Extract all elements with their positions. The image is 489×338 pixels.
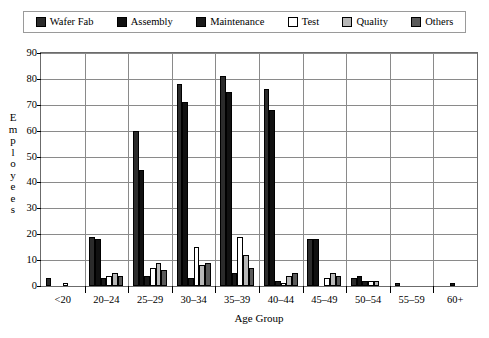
x-axis-tick-mark bbox=[303, 286, 304, 293]
bar-others[interactable] bbox=[161, 270, 167, 286]
bar-group bbox=[133, 53, 167, 286]
x-axis-tick-mark bbox=[85, 286, 86, 293]
bar-others[interactable] bbox=[336, 276, 342, 286]
chart-legend: Wafer FabAssemblyMaintenanceTestQualityO… bbox=[23, 11, 466, 33]
gridline-vertical bbox=[128, 53, 129, 286]
bar-maintenance[interactable] bbox=[450, 283, 456, 286]
y-axis-tick-label: 90 bbox=[27, 48, 38, 59]
y-axis-tick-mark bbox=[37, 131, 41, 132]
legend-item-label: Quality bbox=[356, 17, 388, 28]
bar-group bbox=[264, 53, 298, 286]
legend-item-quality[interactable]: Quality bbox=[342, 17, 388, 28]
y-axis-title-letter: p bbox=[7, 135, 19, 147]
bar-assembly[interactable] bbox=[313, 239, 319, 286]
x-axis-tick-mark bbox=[259, 286, 260, 293]
y-axis-title-letter: e bbox=[7, 181, 19, 193]
y-axis-tick-mark bbox=[37, 157, 41, 158]
legend-item-label: Assembly bbox=[131, 17, 173, 28]
legend-item-assembly[interactable]: Assembly bbox=[117, 17, 173, 28]
legend-swatch-icon bbox=[196, 17, 206, 27]
x-axis-tick-mark bbox=[433, 286, 434, 293]
bar-group bbox=[46, 53, 80, 286]
x-axis-tick-label: 60+ bbox=[447, 295, 463, 306]
y-axis-tick-label: 10 bbox=[27, 255, 38, 266]
chart-container: Wafer FabAssemblyMaintenanceTestQualityO… bbox=[0, 0, 489, 338]
y-axis-title: Employees bbox=[7, 112, 19, 216]
x-axis-tick-label: <20 bbox=[55, 295, 71, 306]
gridline-vertical bbox=[172, 53, 173, 286]
x-axis-tick-label: 25–29 bbox=[137, 295, 163, 306]
x-axis-tick-mark bbox=[128, 286, 129, 293]
bar-wafer-fab[interactable] bbox=[395, 283, 401, 286]
x-axis-tick-label: 55–59 bbox=[398, 295, 424, 306]
y-axis-tick-mark bbox=[37, 182, 41, 183]
bar-group bbox=[438, 53, 472, 286]
x-axis-tick-label: 50–54 bbox=[355, 295, 381, 306]
gridline-vertical bbox=[215, 53, 216, 286]
y-axis-tick-mark bbox=[37, 208, 41, 209]
bar-others[interactable] bbox=[118, 276, 124, 286]
y-axis-title-letter: o bbox=[7, 158, 19, 170]
bar-others[interactable] bbox=[292, 273, 298, 286]
y-axis-tick-mark bbox=[37, 234, 41, 235]
gridline-vertical bbox=[85, 53, 86, 286]
x-axis-tick-mark bbox=[172, 286, 173, 293]
y-axis-tick-mark bbox=[37, 79, 41, 80]
x-axis-tick-mark bbox=[215, 286, 216, 293]
y-axis-tick-mark bbox=[37, 53, 41, 54]
bar-group bbox=[89, 53, 123, 286]
legend-item-wafer-fab[interactable]: Wafer Fab bbox=[36, 17, 94, 28]
bar-assembly[interactable] bbox=[139, 170, 145, 287]
y-axis-tick-label: 60 bbox=[27, 125, 38, 136]
plot-area: Age Group 0102030405060708090<2020–2425–… bbox=[40, 52, 478, 287]
legend-swatch-icon bbox=[288, 17, 298, 27]
y-axis-tick-label: 50 bbox=[27, 151, 38, 162]
x-axis-tick-label: 20–24 bbox=[93, 295, 119, 306]
legend-swatch-icon bbox=[36, 17, 46, 27]
bar-wafer-fab[interactable] bbox=[46, 278, 52, 286]
gridline-vertical bbox=[346, 53, 347, 286]
bar-group bbox=[395, 53, 429, 286]
bar-group bbox=[177, 53, 211, 286]
y-axis-title-letter: E bbox=[7, 112, 19, 124]
bar-group bbox=[307, 53, 341, 286]
x-axis-tick-label: 40–44 bbox=[268, 295, 294, 306]
legend-swatch-icon bbox=[342, 17, 352, 27]
y-axis-tick-mark bbox=[37, 286, 41, 287]
y-axis-tick-label: 20 bbox=[27, 229, 38, 240]
x-axis-tick-label: 45–49 bbox=[311, 295, 337, 306]
y-axis-tick-label: 30 bbox=[27, 203, 38, 214]
legend-item-label: Wafer Fab bbox=[50, 17, 94, 28]
legend-item-label: Others bbox=[425, 17, 453, 28]
gridline-vertical bbox=[303, 53, 304, 286]
x-axis-title: Age Group bbox=[41, 312, 477, 324]
legend-swatch-icon bbox=[411, 17, 421, 27]
bar-assembly[interactable] bbox=[269, 110, 275, 286]
bar-group bbox=[351, 53, 385, 286]
legend-swatch-icon bbox=[117, 17, 127, 27]
legend-item-maintenance[interactable]: Maintenance bbox=[196, 17, 264, 28]
gridline-vertical bbox=[390, 53, 391, 286]
bar-group bbox=[220, 53, 254, 286]
x-axis-tick-mark bbox=[390, 286, 391, 293]
y-axis-tick-mark bbox=[37, 260, 41, 261]
x-axis-tick-mark bbox=[346, 286, 347, 293]
y-axis-tick-label: 40 bbox=[27, 177, 38, 188]
bar-assembly[interactable] bbox=[182, 102, 188, 286]
y-axis-tick-mark bbox=[37, 105, 41, 106]
gridline-vertical bbox=[433, 53, 434, 286]
bar-test[interactable] bbox=[63, 283, 69, 286]
x-axis-tick-label: 30–34 bbox=[180, 295, 206, 306]
legend-item-label: Test bbox=[302, 17, 319, 28]
x-axis-tick-label: 35–39 bbox=[224, 295, 250, 306]
bar-quality[interactable] bbox=[374, 281, 380, 286]
bar-others[interactable] bbox=[205, 263, 211, 286]
gridline-vertical bbox=[259, 53, 260, 286]
bar-others[interactable] bbox=[249, 268, 255, 286]
legend-item-label: Maintenance bbox=[210, 17, 264, 28]
bar-assembly[interactable] bbox=[226, 92, 232, 286]
legend-item-test[interactable]: Test bbox=[288, 17, 319, 28]
y-axis-tick-label: 70 bbox=[27, 100, 38, 111]
legend-item-others[interactable]: Others bbox=[411, 17, 453, 28]
y-axis-title-letter: s bbox=[7, 204, 19, 216]
